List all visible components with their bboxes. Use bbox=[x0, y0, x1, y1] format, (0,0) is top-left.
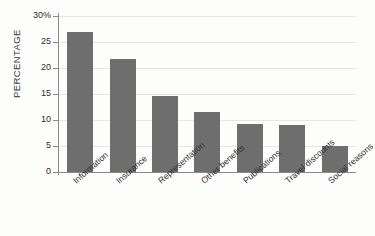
bar-slot bbox=[144, 16, 186, 172]
y-axis-tick-label: 10 bbox=[3, 114, 51, 124]
y-axis-tick-mark bbox=[53, 172, 59, 173]
y-axis-tick-mark bbox=[53, 68, 59, 69]
y-axis-tick-mark bbox=[53, 16, 59, 17]
y-axis-tick-label: 15 bbox=[3, 88, 51, 98]
bar-slot bbox=[59, 16, 101, 172]
bar[interactable] bbox=[67, 32, 93, 172]
y-axis-tick-label: 0 bbox=[3, 166, 51, 176]
bar[interactable] bbox=[110, 59, 136, 172]
y-axis-tick-mark bbox=[53, 146, 59, 147]
y-axis-tick-mark bbox=[53, 42, 59, 43]
y-axis-tick-mark bbox=[53, 120, 59, 121]
y-axis-tick-label: 20 bbox=[3, 62, 51, 72]
y-axis-tick-mark bbox=[53, 94, 59, 95]
bar-slot bbox=[101, 16, 143, 172]
y-axis-tick-labels: 051015202530% bbox=[0, 0, 51, 236]
y-axis-tick-label: 25 bbox=[3, 36, 51, 46]
y-axis-tick-label: 5 bbox=[3, 140, 51, 150]
plot-area bbox=[59, 16, 356, 172]
y-axis-tick-label: 30% bbox=[3, 10, 51, 20]
